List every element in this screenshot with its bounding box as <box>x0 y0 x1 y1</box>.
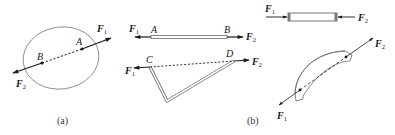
bent-bar-outer <box>150 61 234 101</box>
attachment-point-upper <box>345 56 348 59</box>
two-force-member-diagram: A B F1 F2 (a) A B F1 F2 C D F1 F2 (b) F1… <box>0 0 395 135</box>
curved-bar-body <box>295 51 352 101</box>
label-f2: F2 <box>357 12 368 24</box>
part-b-bent-bar: C D F1 F2 (b) <box>124 48 262 127</box>
force-f2-arrow <box>346 38 373 57</box>
label-b: B <box>224 24 230 35</box>
label-d: D <box>225 48 234 59</box>
label-f1: F1 <box>124 65 135 77</box>
point-a-dot <box>80 47 83 50</box>
rod-end-right <box>335 13 338 21</box>
attachment-point-lower <box>299 89 302 92</box>
label-c: C <box>146 54 153 65</box>
force-f2-arrow <box>234 60 249 61</box>
label-f2: F2 <box>245 31 256 43</box>
caption-a: (a) <box>57 115 68 127</box>
label-b: B <box>37 51 43 62</box>
line-of-action-dashed <box>42 49 82 63</box>
label-f1: F1 <box>276 110 287 122</box>
rod-end-left <box>288 13 291 21</box>
rod-body <box>288 13 337 21</box>
part-b-straight-bar: A B F1 F2 <box>128 23 256 43</box>
label-f1: F1 <box>128 23 139 35</box>
straight-bar-body <box>151 36 227 39</box>
label-f1: F1 <box>264 3 275 15</box>
force-f1-arrow <box>82 38 111 49</box>
line-of-action-dashed <box>150 61 234 67</box>
label-f2: F2 <box>15 78 26 90</box>
label-f1: F1 <box>96 23 107 35</box>
label-f2: F2 <box>251 56 262 68</box>
caption-b: (b) <box>247 115 259 127</box>
rigid-body-ellipse <box>19 22 103 94</box>
curved-bar: F2 F1 <box>276 38 385 122</box>
compressed-rod: F1 F2 <box>264 3 368 24</box>
force-f1-arrow <box>134 67 150 68</box>
label-f2: F2 <box>374 38 385 50</box>
force-f2-arrow <box>13 63 42 73</box>
label-a: A <box>150 24 158 35</box>
part-a-rigid-body: A B F1 F2 (a) <box>13 22 111 127</box>
label-a: A <box>75 36 83 47</box>
